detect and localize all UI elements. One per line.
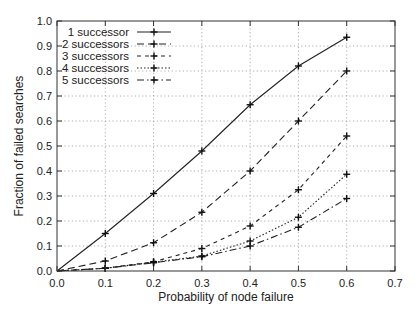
legend-label: 1 successor (68, 26, 130, 38)
series-5 (57, 195, 350, 272)
x-tick-label: 0.6 (339, 277, 354, 289)
y-axis-label: Fraction of failed searches (12, 76, 26, 217)
x-tick-label: 0.7 (387, 277, 402, 289)
y-tick-label: 0.7 (37, 90, 52, 102)
y-tick-label: 0.9 (37, 40, 52, 52)
y-tick-label: 0.5 (37, 140, 52, 152)
legend-label: 3 successors (62, 50, 129, 62)
y-tick-label: 0.8 (37, 65, 52, 77)
y-tick-label: 0.2 (37, 215, 52, 227)
x-tick-label: 0.1 (98, 277, 113, 289)
y-tick-label: 0.6 (37, 115, 52, 127)
x-tick-label: 0.3 (194, 277, 209, 289)
x-axis-label: Probability of node failure (158, 290, 294, 304)
y-tick-label: 0.0 (37, 265, 52, 277)
chart-canvas: 0.00.10.20.30.40.50.60.70.80.91.00.00.10… (0, 0, 420, 314)
legend: 1 successor2 successors3 successors4 suc… (62, 26, 171, 86)
x-tick-label: 0.5 (291, 277, 306, 289)
x-tick-label: 0.0 (49, 277, 64, 289)
y-tick-label: 0.3 (37, 190, 52, 202)
y-tick-label: 0.1 (37, 240, 52, 252)
line-chart: 0.00.10.20.30.40.50.60.70.80.91.00.00.10… (0, 0, 420, 314)
y-tick-label: 0.4 (37, 165, 52, 177)
x-tick-label: 0.2 (146, 277, 161, 289)
legend-label: 2 successors (62, 38, 129, 50)
series-3 (57, 133, 350, 272)
x-tick-label: 0.4 (242, 277, 257, 289)
legend-label: 4 successors (62, 62, 129, 74)
series-2 (57, 68, 350, 272)
y-tick-label: 1.0 (37, 15, 52, 27)
legend-label: 5 successors (62, 74, 129, 86)
